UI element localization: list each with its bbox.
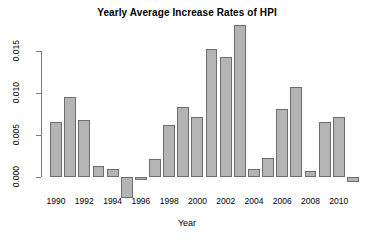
bar-2010	[333, 117, 345, 177]
bar-1994	[107, 169, 119, 177]
bar-1999	[177, 107, 189, 177]
bar-2005	[262, 158, 274, 177]
x-tick-label-1998: 1998	[160, 196, 179, 206]
bar-2003	[234, 25, 246, 177]
x-tick-label-1990: 1990	[47, 196, 66, 206]
bars-layer	[46, 18, 362, 200]
chart-title: Yearly Average Increase Rates of HPI	[0, 7, 374, 18]
plot-area	[46, 18, 362, 200]
bar-1998	[163, 125, 175, 177]
y-tick-label-0.010: 0.010	[12, 82, 21, 103]
y-tick-0.005	[36, 135, 41, 136]
x-tick-label-2010: 2010	[329, 196, 348, 206]
x-tick-label-1996: 1996	[131, 196, 150, 206]
y-tick-label-0.005: 0.005	[12, 124, 21, 145]
x-tick-label-2002: 2002	[216, 196, 235, 206]
x-tick-label-2004: 2004	[245, 196, 264, 206]
bar-2007	[290, 87, 302, 177]
bar-2008	[305, 171, 317, 177]
y-axis-line	[41, 51, 42, 177]
bar-1991	[64, 97, 76, 177]
bar-1993	[93, 166, 105, 177]
bar-2002	[220, 57, 232, 177]
y-tick-label-0.000: 0.000	[12, 166, 21, 187]
bar-2000	[191, 117, 203, 177]
bar-chart: Yearly Average Increase Rates of HPI 0.0…	[0, 0, 374, 241]
x-tick-label-2008: 2008	[301, 196, 320, 206]
bar-1995	[121, 177, 133, 198]
y-tick-0.015	[36, 51, 41, 52]
bar-2006	[276, 109, 288, 177]
bar-1992	[78, 120, 90, 177]
x-tick-label-1992: 1992	[75, 196, 94, 206]
bar-2009	[319, 122, 331, 177]
bar-1990	[50, 122, 62, 177]
bar-2001	[206, 49, 218, 177]
x-tick-label-2000: 2000	[188, 196, 207, 206]
bar-1996	[135, 177, 147, 180]
bar-2011	[347, 177, 359, 182]
bar-1997	[149, 159, 161, 177]
x-tick-label-2006: 2006	[273, 196, 292, 206]
x-axis-title: Year	[0, 218, 374, 228]
y-tick-0.010	[36, 93, 41, 94]
y-tick-label-0.015: 0.015	[12, 40, 21, 61]
x-tick-label-1994: 1994	[103, 196, 122, 206]
bar-2004	[248, 169, 260, 177]
y-tick-0.000	[36, 177, 41, 178]
